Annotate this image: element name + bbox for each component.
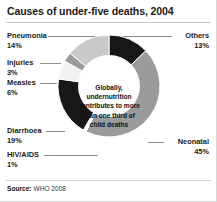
- slice-label-others-name: Others: [185, 31, 209, 40]
- slice-label-others-pct: 13%: [185, 41, 209, 51]
- slice-label-injuries-pct: 3%: [7, 68, 33, 78]
- slice-label-injuries: Injuries 3%: [7, 58, 33, 78]
- slice-label-others: Others 13%: [185, 31, 209, 51]
- chart-figure: Causes of under-five deaths, 2004 Global…: [0, 0, 217, 202]
- slice-label-neonatal-pct: 45%: [178, 147, 209, 157]
- slice-label-neonatal: Neonatal 45%: [178, 137, 209, 157]
- slice-label-neonatal-name: Neonatal: [178, 137, 209, 146]
- slice-label-pneumonia-pct: 14%: [7, 41, 47, 51]
- slice-label-hivaids-pct: 1%: [7, 160, 39, 170]
- leader-line-measles: [40, 83, 57, 84]
- source-divider: [6, 180, 211, 181]
- center-annotation: Globally, undernutrition contributes to …: [75, 72, 143, 140]
- slice-label-hivaids: HIV/AIDS 1%: [7, 150, 39, 170]
- slice-label-diarrhoea: Diarrhoea 19%: [7, 126, 42, 146]
- source-prefix: Source:: [7, 185, 32, 192]
- slice-label-hivaids-name: HIV/AIDS: [7, 150, 39, 159]
- title-divider: [6, 22, 211, 23]
- slice-label-diarrhoea-pct: 19%: [7, 136, 42, 146]
- slice-label-pneumonia-name: Pneumonia: [7, 31, 47, 40]
- slice-label-measles-name: Measles: [7, 78, 36, 87]
- chart-title: Causes of under-five deaths, 2004: [7, 5, 174, 17]
- slice-label-injuries-name: Injuries: [7, 58, 33, 67]
- slice-label-measles: Measles 6%: [7, 78, 36, 98]
- donut-chart: Globally, undernutrition contributes to …: [57, 29, 161, 171]
- slice-label-measles-pct: 6%: [7, 88, 36, 98]
- slice-label-pneumonia: Pneumonia 14%: [7, 31, 47, 51]
- source-note: Source: WHO 2008: [7, 185, 66, 192]
- slice-label-diarrhoea-name: Diarrhoea: [7, 126, 42, 135]
- source-text: WHO 2008: [33, 185, 66, 192]
